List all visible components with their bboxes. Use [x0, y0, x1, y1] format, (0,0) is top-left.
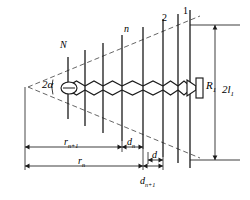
feeder-lower-1: [85, 90, 103, 95]
arrowhead: [159, 164, 164, 169]
arrowhead: [159, 158, 164, 163]
feeder-lower-2: [103, 90, 122, 95]
feeder-lower-4: [143, 90, 163, 95]
load-resistor-body: [196, 78, 203, 98]
feeder-upper-2: [103, 81, 122, 86]
feeder-upper-4: [143, 81, 163, 86]
element-label-n: n: [124, 24, 129, 34]
dim-label-d-n-plus-1: dn+1: [140, 176, 155, 188]
transposed-feeder: [68, 81, 190, 95]
element-label-2: 2: [162, 13, 167, 23]
dim-label-r-n-plus-1: rn+1: [64, 137, 78, 149]
dim-label-d: d: [152, 150, 157, 160]
feeder-upper-3: [122, 81, 143, 86]
arrowhead: [118, 145, 123, 150]
arrowhead: [143, 164, 148, 169]
total-length-label: 2l1: [222, 84, 234, 98]
arrowhead: [25, 145, 30, 150]
dim-label-d-n: dn: [127, 137, 135, 149]
feeder-lower-3: [122, 90, 143, 95]
feeder-upper-5: [163, 81, 178, 86]
element-label-N: N: [60, 40, 67, 50]
upper-envelope-line: [28, 16, 200, 87]
arrowhead: [139, 164, 144, 169]
feeder-upper-1: [85, 81, 103, 86]
feeder-lower-5: [163, 90, 178, 95]
load-wedge: [187, 80, 196, 96]
arrowhead: [213, 25, 218, 30]
load-resistor-label: R1: [206, 80, 216, 94]
dim-label-r-n: rn: [78, 156, 85, 168]
element-label-1: 1: [183, 6, 188, 16]
envelope-lines: [28, 16, 200, 158]
arrowhead: [122, 145, 127, 150]
lpda-antenna-diagram: 2α N n 2 1 R1 2l1 rn+1 rn dn d dn+1: [0, 0, 250, 200]
arrowhead: [213, 156, 218, 161]
arrowhead: [25, 164, 30, 169]
arrowhead: [139, 145, 144, 150]
angle-label: 2α: [42, 79, 53, 90]
